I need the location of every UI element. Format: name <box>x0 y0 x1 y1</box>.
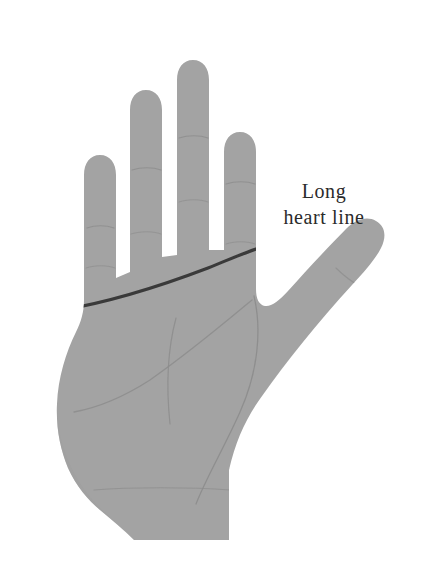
annotation-line-1: Long <box>262 178 386 204</box>
annotation-line-2: heart line <box>262 204 386 230</box>
annotation-long-heart-line: Long heart line <box>262 178 386 231</box>
palmistry-diagram: Long heart line <box>0 0 434 571</box>
hand-illustration <box>0 0 434 571</box>
